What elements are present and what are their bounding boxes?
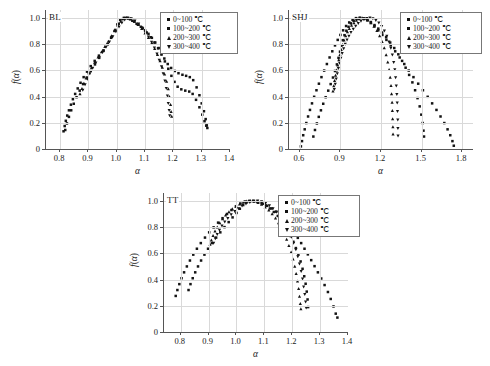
data-point [314, 129, 317, 132]
data-point [273, 211, 276, 214]
data-point [303, 128, 306, 131]
x-tick-label: 1.0 [230, 336, 241, 346]
data-point [200, 259, 203, 262]
x-tick [172, 149, 173, 152]
data-point [187, 289, 190, 292]
data-point [204, 236, 207, 239]
data-point [293, 265, 296, 268]
legend-marker-square-icon [285, 210, 288, 213]
x-axis-title-shj: α [248, 166, 473, 176]
y-tick-label: 0.4 [11, 92, 40, 102]
data-point [395, 84, 398, 87]
x-tick-label: 0.6 [294, 153, 305, 163]
legend-item[interactable]: 0~100 ℃ [404, 15, 478, 24]
data-point [318, 82, 321, 85]
gridline-vertical [181, 193, 182, 332]
x-tick [319, 332, 320, 335]
data-point [345, 25, 348, 28]
data-point [336, 72, 339, 75]
data-point [305, 290, 308, 293]
y-tick-label: 0 [11, 144, 40, 154]
data-point [188, 90, 191, 93]
data-point [170, 75, 173, 78]
data-point [320, 109, 323, 112]
data-point [203, 110, 206, 113]
legend-item[interactable]: 0~100 ℃ [164, 15, 234, 24]
data-point [310, 259, 313, 262]
data-point [68, 116, 71, 119]
legend-item[interactable]: 100~200 ℃ [164, 24, 234, 33]
x-tick [347, 332, 348, 335]
x-tick [421, 149, 422, 152]
data-point [417, 82, 420, 85]
legend-item[interactable]: 300~400 ℃ [282, 225, 356, 234]
data-point [65, 120, 68, 123]
y-tick [160, 280, 163, 281]
data-point [167, 102, 170, 105]
y-tick-label: 0.2 [254, 118, 283, 128]
gridline-vertical [340, 10, 341, 149]
data-point [176, 85, 179, 88]
legend-item[interactable]: 300~400 ℃ [164, 42, 234, 51]
y-tick [160, 332, 163, 333]
data-point [186, 265, 189, 268]
data-point [189, 259, 192, 262]
legend-item[interactable]: 100~200 ℃ [404, 24, 478, 33]
data-point [82, 76, 85, 79]
data-point [347, 35, 350, 38]
data-point [359, 20, 362, 23]
legend-label: 0~100 ℃ [173, 15, 203, 24]
x-tick-label: 1.3 [195, 153, 206, 163]
data-point [195, 86, 198, 89]
legend-item[interactable]: 300~400 ℃ [404, 42, 478, 51]
legend-item[interactable]: 0~100 ℃ [282, 198, 356, 207]
legend-item[interactable]: 100~200 ℃ [282, 207, 356, 216]
x-tick-label: 0.9 [202, 336, 213, 346]
legend-bl: 0~100 ℃100~200 ℃200~300 ℃300~400 ℃ [160, 12, 238, 54]
legend-label: 200~300 ℃ [173, 33, 211, 42]
data-point [431, 102, 434, 105]
gridline-vertical [264, 193, 265, 332]
data-point [385, 39, 388, 42]
legend-label: 200~300 ℃ [413, 33, 451, 42]
data-point [307, 115, 310, 118]
data-point [342, 47, 345, 50]
data-point [300, 242, 303, 245]
gridline-horizontal [164, 280, 348, 281]
gridline-horizontal [289, 97, 473, 98]
legend-item[interactable]: 200~300 ℃ [282, 216, 356, 225]
legend-marker-triangle-down-icon [167, 45, 171, 49]
y-tick-label: 0.4 [129, 275, 158, 285]
data-point [285, 238, 288, 241]
y-tick [42, 18, 45, 19]
data-point [311, 102, 314, 105]
data-point [389, 47, 392, 50]
panel-tag-shj: SHJ [291, 12, 309, 22]
y-tick [42, 123, 45, 124]
x-tick [116, 149, 117, 152]
data-point [196, 247, 199, 250]
x-tick [380, 149, 381, 152]
data-point [299, 302, 302, 305]
data-point [357, 22, 360, 25]
data-point [327, 291, 330, 294]
legend-item[interactable]: 200~300 ℃ [164, 33, 234, 42]
legend-marker-square-icon [167, 27, 170, 30]
x-tick-label: 1.1 [258, 336, 269, 346]
data-point [391, 54, 394, 57]
data-point [180, 88, 183, 91]
data-point [299, 307, 302, 310]
x-tick-label: 1.3 [314, 336, 325, 346]
data-point [395, 93, 398, 96]
data-point [299, 260, 302, 263]
data-point [408, 74, 411, 77]
legend-item[interactable]: 200~300 ℃ [404, 33, 478, 42]
x-tick-label: 0.8 [54, 153, 65, 163]
legend-marker-triangle-up-icon [167, 36, 171, 40]
x-tick [180, 332, 181, 335]
data-point [205, 124, 208, 127]
data-point [185, 75, 188, 78]
data-point [398, 56, 401, 59]
data-point [329, 83, 332, 86]
gridline-vertical [117, 10, 118, 149]
